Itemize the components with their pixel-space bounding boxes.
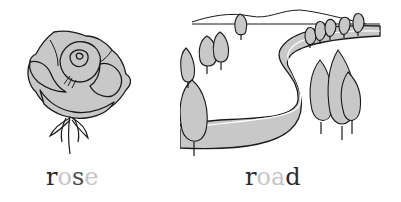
letter-o: o [256,163,270,191]
letter-e: e [84,163,98,191]
letter-s: s [72,163,84,191]
letter-r: r [245,163,256,191]
word-road: road [245,165,301,189]
word-rose: rose [46,165,98,189]
letter-d: d [285,163,300,191]
letter-o: o [57,163,71,191]
letter-r: r [46,163,57,191]
letter-a: a [271,163,285,191]
